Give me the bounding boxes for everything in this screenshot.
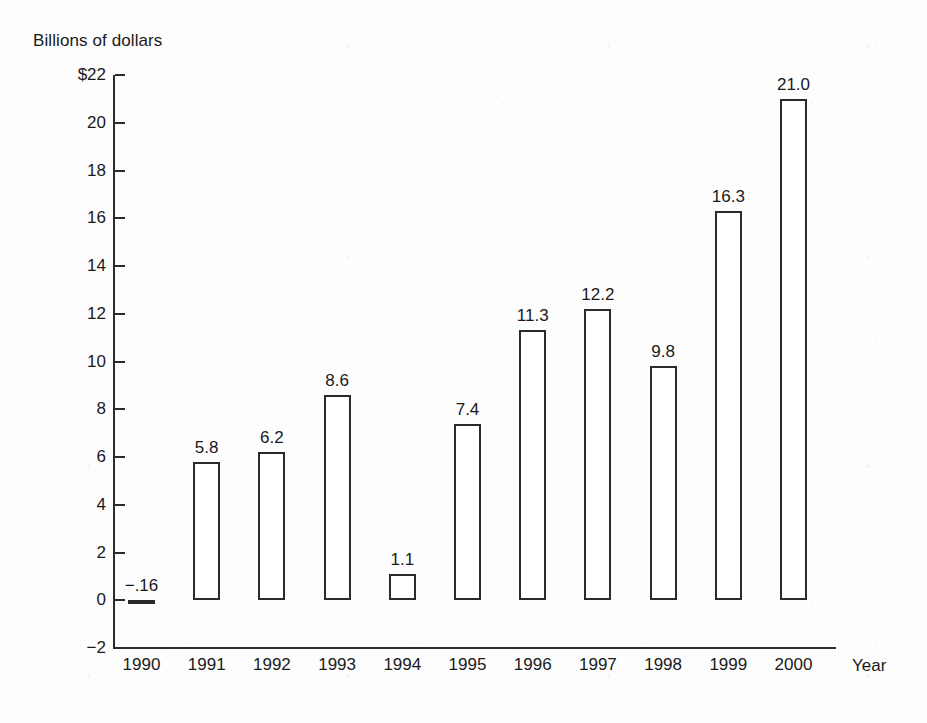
y-axis-tick-label: 8 [36, 400, 106, 418]
y-axis-tick-label: 18 [36, 162, 106, 180]
bar-value-label: 12.2 [554, 286, 641, 303]
y-axis-tick-label: 2 [36, 544, 106, 562]
y-axis-tick-label: 4 [36, 496, 106, 514]
y-axis-tick-label-text: 8 [36, 400, 106, 417]
y-axis-tick-label-text: $22 [36, 66, 106, 83]
bar-value-label: 7.4 [424, 401, 511, 418]
y-axis-tick [115, 599, 125, 601]
y-axis-tick [115, 504, 125, 506]
y-axis-tick-label: 10 [36, 353, 106, 371]
x-axis-title: Year [852, 656, 886, 676]
bar-value-label: 11.3 [489, 307, 576, 324]
bar [324, 395, 351, 600]
bar [780, 99, 807, 600]
bar-value-label: −.16 [98, 577, 185, 594]
y-axis-tick [115, 122, 125, 124]
bar [258, 452, 285, 600]
y-axis-tick-label-text: 20 [36, 114, 106, 131]
bar [128, 600, 155, 604]
y-axis-tick-label: 12 [36, 305, 106, 323]
y-axis-tick [115, 552, 125, 554]
y-axis-tick-label: $22 [36, 66, 106, 84]
y-axis-tick [115, 74, 125, 76]
bar-value-label: 21.0 [750, 76, 837, 93]
y-axis-tick-label-text: 10 [36, 353, 106, 370]
y-axis-tick-label-text: 14 [36, 257, 106, 274]
y-axis-tick-label: 20 [36, 114, 106, 132]
bar [650, 366, 677, 600]
y-axis-tick-label: 16 [36, 209, 106, 227]
bar [584, 309, 611, 600]
bar [454, 424, 481, 601]
y-axis-tick-label: 0 [36, 591, 106, 609]
y-axis-tick-label-text: 18 [36, 162, 106, 179]
y-axis-tick [115, 313, 125, 315]
y-axis-tick-label-text: 12 [36, 305, 106, 322]
bar [715, 211, 742, 600]
y-axis-tick-label-text: 4 [36, 496, 106, 513]
bar-value-label: 16.3 [685, 188, 772, 205]
y-axis-tick [115, 217, 125, 219]
bar [193, 462, 220, 600]
y-axis-tick-label-text: 2 [36, 544, 106, 561]
y-axis-tick [115, 265, 125, 267]
bar [389, 574, 416, 600]
chart-page: Billions of dollars $2220181614121086420… [0, 0, 927, 723]
y-axis-title: Billions of dollars [33, 31, 162, 51]
y-axis-tick-label-text: −2 [36, 639, 106, 656]
y-axis-tick [115, 170, 125, 172]
bar-value-label: 8.6 [294, 372, 381, 389]
bar-value-label: 1.1 [359, 551, 446, 568]
y-axis-tick [115, 361, 125, 363]
x-axis-line [113, 647, 836, 649]
y-axis-tick-label: 6 [36, 448, 106, 466]
bar-value-label: 6.2 [228, 429, 315, 446]
y-axis-tick-label: 14 [36, 257, 106, 275]
bar [519, 330, 546, 600]
y-axis-tick-label-text: 0 [36, 591, 106, 608]
y-axis-tick [115, 647, 125, 649]
bar-value-label: 9.8 [620, 343, 707, 360]
y-axis-tick [115, 408, 125, 410]
x-axis-tick-label: 2000 [755, 656, 832, 673]
y-axis-tick-label-text: 16 [36, 209, 106, 226]
y-axis-tick-label-text: 6 [36, 448, 106, 465]
y-axis-tick [115, 456, 125, 458]
y-axis-tick-label: −2 [36, 639, 106, 657]
